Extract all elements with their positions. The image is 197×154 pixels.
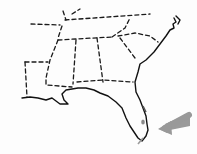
coastline bbox=[22, 16, 180, 141]
pointer-arrow bbox=[158, 113, 190, 135]
state-borders bbox=[25, 9, 158, 97]
lake-okeechobee bbox=[141, 119, 145, 124]
map-canvas bbox=[0, 0, 197, 154]
southeast-us-map: Southeastern United States sketch map bbox=[0, 0, 197, 154]
map-title: Southeastern United States sketch map bbox=[0, 153, 18, 154]
